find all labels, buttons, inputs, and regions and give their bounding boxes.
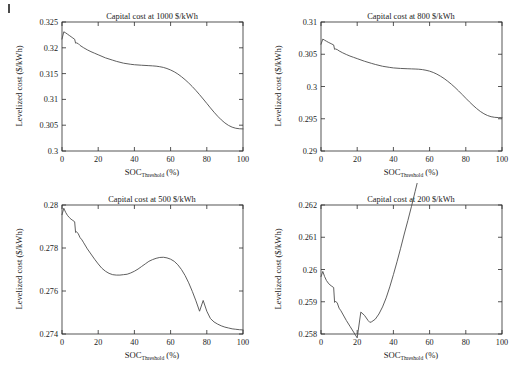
y-tick-label: 0.261 bbox=[299, 233, 317, 242]
x-tick-label: 20 bbox=[94, 338, 102, 347]
y-tick-label: 0.315 bbox=[40, 70, 58, 79]
x-tick-labels: 020406080100 bbox=[319, 338, 508, 347]
y-tick-labels: 0.2580.2590.260.2610.262 bbox=[299, 201, 317, 339]
x-tick-labels: 020406080100 bbox=[60, 338, 249, 347]
x-tick-label: 60 bbox=[167, 155, 175, 164]
y-tick-label: 0.28 bbox=[44, 201, 58, 210]
x-tick-label: 20 bbox=[353, 338, 361, 347]
x-axis-ticks bbox=[321, 205, 502, 334]
x-tick-label: 0 bbox=[60, 155, 64, 164]
y-tick-label: 0.295 bbox=[299, 115, 317, 124]
y-tick-label: 0.3 bbox=[48, 147, 58, 156]
x-tick-label: 0 bbox=[60, 338, 64, 347]
y-axis-label: Levelized cost ($/kWh) bbox=[14, 228, 24, 309]
data-curve bbox=[321, 183, 502, 338]
y-tick-label: 0.274 bbox=[40, 330, 58, 339]
y-tick-label: 0.3 bbox=[307, 83, 317, 92]
x-tick-label: 60 bbox=[167, 338, 175, 347]
x-axis-ticks bbox=[62, 22, 243, 151]
x-tick-label: 40 bbox=[130, 155, 138, 164]
chart-svg-200: Capital cost at 200 $/kWh 020406080100 0… bbox=[259, 183, 518, 366]
x-tick-label: 20 bbox=[353, 155, 361, 164]
y-tick-label: 0.31 bbox=[44, 95, 58, 104]
y-axis-ticks bbox=[62, 22, 243, 151]
x-axis-label: SOCThreshold (%) bbox=[384, 167, 439, 178]
chart-svg-500: Capital cost at 500 $/kWh 020406080100 0… bbox=[0, 183, 259, 366]
chart-title: Capital cost at 1000 $/kWh bbox=[106, 12, 198, 21]
y-tick-label: 0.325 bbox=[40, 18, 58, 27]
y-tick-label: 0.278 bbox=[40, 244, 58, 253]
y-axis-label: Levelized cost ($/kWh) bbox=[273, 45, 283, 126]
x-tick-label: 100 bbox=[237, 155, 249, 164]
y-tick-labels: 0.30.3050.310.3150.320.325 bbox=[40, 18, 58, 156]
x-tick-label: 80 bbox=[203, 155, 211, 164]
chart-title: Capital cost at 800 $/kWh bbox=[367, 12, 455, 21]
chart-panel-200: Capital cost at 200 $/kWh 020406080100 0… bbox=[259, 183, 518, 366]
y-axis-label: Levelized cost ($/kWh) bbox=[14, 45, 24, 126]
x-axis-ticks bbox=[62, 205, 243, 334]
chart-panel-1000: Capital cost at 1000 $/kWh 020406080100 … bbox=[0, 0, 259, 183]
x-tick-label: 20 bbox=[94, 155, 102, 164]
chart-title: Capital cost at 500 $/kWh bbox=[108, 195, 196, 204]
y-tick-label: 0.29 bbox=[303, 147, 317, 156]
plot-frame bbox=[62, 205, 243, 334]
x-tick-label: 40 bbox=[389, 155, 397, 164]
plot-frame bbox=[321, 22, 502, 151]
chart-svg-800: Capital cost at 800 $/kWh 020406080100 0… bbox=[259, 0, 518, 183]
chart-title: Capital cost at 200 $/kWh bbox=[367, 195, 455, 204]
data-curve bbox=[62, 208, 243, 330]
x-tick-label: 100 bbox=[237, 338, 249, 347]
plot-frame bbox=[321, 205, 502, 334]
y-axis-ticks bbox=[321, 22, 502, 151]
y-tick-label: 0.26 bbox=[303, 266, 317, 275]
x-axis-ticks bbox=[321, 22, 502, 151]
x-tick-labels: 020406080100 bbox=[60, 155, 249, 164]
y-tick-labels: 0.2740.2760.2780.28 bbox=[40, 201, 58, 339]
x-tick-label: 100 bbox=[496, 338, 508, 347]
x-tick-label: 60 bbox=[426, 338, 434, 347]
x-axis-label: SOCThreshold (%) bbox=[125, 167, 180, 178]
data-curve bbox=[62, 32, 243, 129]
y-tick-label: 0.258 bbox=[299, 330, 317, 339]
x-tick-label: 100 bbox=[496, 155, 508, 164]
x-tick-label: 0 bbox=[319, 338, 323, 347]
y-tick-label: 0.305 bbox=[299, 50, 317, 59]
x-tick-label: 0 bbox=[319, 155, 323, 164]
plot-frame bbox=[62, 22, 243, 151]
chart-panel-500: Capital cost at 500 $/kWh 020406080100 0… bbox=[0, 183, 259, 366]
figure-panel-grid: Capital cost at 1000 $/kWh 020406080100 … bbox=[0, 0, 519, 366]
y-axis-ticks bbox=[321, 205, 502, 334]
y-tick-labels: 0.290.2950.30.3050.31 bbox=[299, 18, 317, 156]
x-tick-label: 80 bbox=[203, 338, 211, 347]
y-tick-label: 0.276 bbox=[40, 287, 58, 296]
x-tick-label: 60 bbox=[426, 155, 434, 164]
y-axis-ticks bbox=[62, 205, 243, 334]
data-curve bbox=[321, 39, 502, 118]
x-tick-label: 80 bbox=[462, 338, 470, 347]
y-tick-label: 0.31 bbox=[303, 18, 317, 27]
x-tick-label: 40 bbox=[389, 338, 397, 347]
x-axis-label: SOCThreshold (%) bbox=[384, 350, 439, 361]
x-tick-label: 80 bbox=[462, 155, 470, 164]
y-tick-label: 0.305 bbox=[40, 121, 58, 130]
y-tick-label: 0.262 bbox=[299, 201, 317, 210]
x-tick-labels: 020406080100 bbox=[319, 155, 508, 164]
y-tick-label: 0.32 bbox=[44, 44, 58, 53]
x-axis-label: SOCThreshold (%) bbox=[125, 350, 180, 361]
y-axis-label: Levelized cost ($/kWh) bbox=[273, 228, 283, 309]
chart-panel-800: Capital cost at 800 $/kWh 020406080100 0… bbox=[259, 0, 518, 183]
y-tick-label: 0.259 bbox=[299, 298, 317, 307]
x-tick-label: 40 bbox=[130, 338, 138, 347]
chart-svg-1000: Capital cost at 1000 $/kWh 020406080100 … bbox=[0, 0, 259, 183]
